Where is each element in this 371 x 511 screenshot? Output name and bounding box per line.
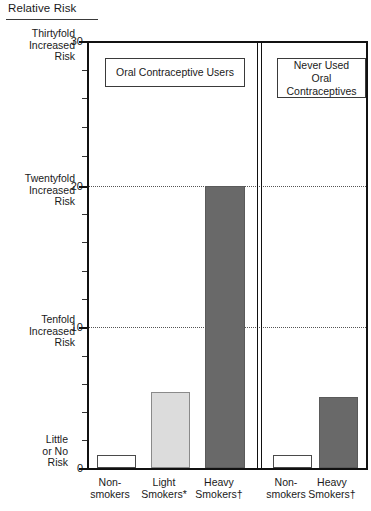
xlabel-oc-heavy-smokers-line2: Smokers† bbox=[187, 488, 251, 500]
panel-header-never-used-line2: Oral Contraceptives bbox=[278, 72, 365, 98]
ytick-minor-14 bbox=[82, 271, 87, 272]
cropped-caption-ghost bbox=[190, 0, 360, 8]
panel-header-oral-contraceptive-users: Oral Contraceptive Users bbox=[105, 58, 245, 87]
panel-header-oral-contraceptive-users-label: Oral Contraceptive Users bbox=[116, 66, 234, 79]
ytick-minor-18 bbox=[82, 214, 87, 215]
ytick-minor-28 bbox=[82, 70, 87, 71]
ytick-minor-6 bbox=[82, 384, 87, 385]
chart-screenshot: Relative Risk Thirtyfold Increased Risk … bbox=[0, 0, 371, 511]
bar-never-heavy-smokers bbox=[319, 397, 358, 468]
panel-header-never-used-line1: Never Used bbox=[294, 59, 349, 72]
ytick-label-10-line3: Risk bbox=[3, 337, 75, 349]
ytick-mark-20 bbox=[79, 186, 87, 188]
plot-top-border bbox=[87, 41, 368, 43]
ytick-label-20-line3: Risk bbox=[3, 196, 75, 208]
ytick-minor-22 bbox=[82, 156, 87, 157]
bar-oc-non-smokers bbox=[97, 455, 136, 468]
ytick-minor-12 bbox=[82, 299, 87, 300]
xlabel-never-heavy-smokers: Heavy Smokers† bbox=[300, 476, 364, 500]
xlabel-oc-heavy-smokers: Heavy Smokers† bbox=[187, 476, 251, 500]
xlabel-never-heavy-smokers-line1: Heavy bbox=[317, 476, 347, 488]
ytick-mark-10 bbox=[79, 327, 87, 329]
ytick-minor-2 bbox=[82, 440, 87, 441]
ytick-minor-16 bbox=[82, 242, 87, 243]
ytick-mark-0 bbox=[79, 468, 87, 470]
xlabel-never-heavy-smokers-line2: Smokers† bbox=[300, 488, 364, 500]
ytick-minor-26 bbox=[82, 98, 87, 99]
y-axis-line bbox=[87, 41, 89, 470]
ytick-minor-4 bbox=[82, 412, 87, 413]
bar-oc-light-smokers bbox=[151, 392, 190, 468]
xlabel-oc-heavy-smokers-line1: Heavy bbox=[204, 476, 234, 488]
bar-never-non-smokers bbox=[273, 455, 312, 468]
ytick-minor-8 bbox=[82, 356, 87, 357]
chart-title: Relative Risk bbox=[8, 2, 76, 14]
panel-header-never-used-oral-contraceptives: Never Used Oral Contraceptives bbox=[277, 58, 366, 98]
panel-divider bbox=[257, 41, 262, 470]
x-axis-baseline bbox=[81, 468, 368, 470]
ytick-label-30-line3: Risk bbox=[3, 51, 75, 63]
xlabel-oc-non-smokers-line1: Non- bbox=[99, 476, 122, 488]
xlabel-oc-light-smokers-line1: Light bbox=[153, 476, 176, 488]
plot-right-border bbox=[366, 41, 368, 470]
ytick-mark-30 bbox=[79, 41, 87, 43]
plot-area: Oral Contraceptive Users Never Used Oral… bbox=[87, 41, 368, 469]
ytick-label-0-line1: Little bbox=[6, 434, 68, 446]
title-underline bbox=[6, 19, 98, 20]
xlabel-never-non-smokers-line1: Non- bbox=[275, 476, 298, 488]
ytick-label-0: Little or No Risk bbox=[6, 434, 68, 469]
ytick-label-0-line3: Risk bbox=[6, 457, 68, 469]
bar-oc-heavy-smokers bbox=[205, 186, 245, 468]
ytick-minor-24 bbox=[82, 127, 87, 128]
